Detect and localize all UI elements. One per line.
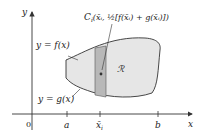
centroid-diagram: y x 0 a x̄i b y = f(x) y = g(x) ℛ Ci(x̄ᵢ… xyxy=(0,0,203,140)
y-axis-label: y xyxy=(21,7,28,17)
lower-curve-label: y = g(x) xyxy=(37,94,75,104)
upper-curve-label: y = f(x) xyxy=(35,40,70,50)
tick-a: a xyxy=(64,120,69,130)
x-axis-label: x xyxy=(188,119,193,129)
origin-label: 0 xyxy=(26,120,31,129)
diagram-canvas: y x 0 a x̄i b y = f(x) y = g(x) ℛ Ci(x̄ᵢ… xyxy=(0,0,203,140)
strip xyxy=(95,46,106,97)
region-r xyxy=(66,38,160,97)
centroid-label: Ci(x̄ᵢ, ½[f(x̄ᵢ) + g(x̄ᵢ)]) xyxy=(84,12,169,23)
centroid-point xyxy=(100,73,103,76)
tick-xbar-i: x̄i xyxy=(96,120,103,131)
region-label: ℛ xyxy=(117,64,125,74)
tick-b: b xyxy=(155,120,161,130)
